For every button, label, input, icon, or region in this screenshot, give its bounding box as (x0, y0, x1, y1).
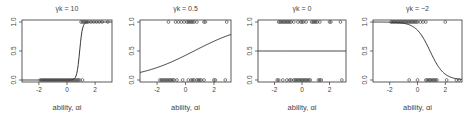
data-point-incorrect (340, 79, 343, 82)
data-point-incorrect (224, 79, 227, 82)
icc-curve (140, 34, 231, 72)
data-point-incorrect (281, 79, 284, 82)
icc-curve (373, 22, 462, 79)
data-point-incorrect (445, 79, 448, 82)
icc-panels-figure: γk = 100.00.51.0-202ability, αiγk = 0.50… (0, 0, 476, 117)
x-axis-label: ability, αi (403, 103, 432, 112)
data-point-correct (195, 21, 198, 24)
x-tick-label: 2 (444, 86, 448, 93)
data-point-incorrect (408, 79, 411, 82)
x-tick-label: 2 (328, 86, 332, 93)
data-point-incorrect (416, 79, 419, 82)
x-tick-label: -2 (36, 86, 42, 93)
y-tick-label: 1.0 (10, 17, 17, 26)
plot-frame (373, 20, 462, 82)
panel-4: γk = −20.00.51.0-202ability, αi (361, 5, 462, 112)
x-axis-label: ability, αi (171, 103, 200, 112)
plot-frame (140, 20, 231, 82)
x-axis-label: ability, αi (53, 103, 82, 112)
data-point-correct (419, 21, 422, 24)
y-tick-label: 1.0 (361, 17, 368, 26)
x-axis-label: ability, αi (288, 103, 317, 112)
panel-3: γk = 00.00.51.0-202ability, αi (246, 5, 346, 112)
panel-title: γk = 0 (293, 5, 312, 13)
figure: γk = 100.00.51.0-202ability, αiγk = 0.50… (0, 0, 476, 117)
y-tick-label: 0.5 (10, 46, 17, 55)
data-point-correct (183, 21, 186, 24)
y-tick-label: 0.0 (361, 75, 368, 84)
data-point-correct (174, 21, 177, 24)
x-tick-label: 0 (184, 86, 188, 93)
x-tick-label: 2 (93, 86, 97, 93)
y-tick-label: 0.0 (10, 75, 17, 84)
y-tick-label: 0.5 (361, 46, 368, 55)
data-point-correct (339, 21, 342, 24)
y-tick-label: 0.5 (246, 46, 253, 55)
data-point-correct (177, 21, 180, 24)
x-tick-label: -2 (387, 86, 393, 93)
data-point-incorrect (285, 79, 288, 82)
x-tick-label: -2 (272, 86, 278, 93)
data-point-correct (422, 21, 425, 24)
data-point-correct (292, 21, 295, 24)
panel-2: γk = 0.50.00.51.0-202ability, αi (128, 5, 231, 112)
icc-curve (22, 22, 112, 80)
y-tick-label: 1.0 (128, 17, 135, 26)
data-point-incorrect (203, 79, 206, 82)
y-tick-label: 0.5 (128, 46, 135, 55)
y-tick-label: 0.0 (246, 75, 253, 84)
x-tick-label: 2 (212, 86, 216, 93)
panel-title: γk = −2 (406, 5, 429, 13)
data-point-incorrect (176, 79, 179, 82)
data-point-correct (225, 21, 228, 24)
data-point-incorrect (181, 79, 184, 82)
panel-title: γk = 0.5 (173, 5, 198, 13)
x-tick-label: 0 (416, 86, 420, 93)
panel-1: γk = 100.00.51.0-202ability, αi (10, 5, 112, 112)
y-tick-label: 0.0 (128, 75, 135, 84)
panel-title: γk = 10 (56, 5, 79, 13)
data-point-correct (180, 21, 183, 24)
x-tick-label: 0 (300, 86, 304, 93)
data-point-incorrect (187, 79, 190, 82)
x-tick-label: -2 (154, 86, 160, 93)
y-tick-label: 1.0 (246, 17, 253, 26)
x-tick-label: 0 (65, 86, 69, 93)
data-point-correct (296, 21, 299, 24)
plot-frame (22, 20, 112, 82)
data-point-correct (424, 21, 427, 24)
data-point-correct (444, 21, 447, 24)
data-point-incorrect (81, 79, 84, 82)
data-point-correct (305, 21, 308, 24)
data-point-correct (167, 21, 170, 24)
data-point-correct (318, 21, 321, 24)
